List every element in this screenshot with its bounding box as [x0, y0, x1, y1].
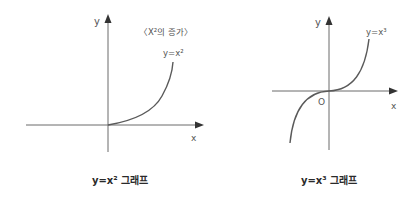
- x-axis-arrow-icon: [195, 122, 204, 129]
- graph-square: y x 〈X²의 증가〉 y=x² y=x² 그래프: [26, 14, 204, 186]
- graphs-canvas: y x 〈X²의 증가〉 y=x² y=x² 그래프 y x O y=x³ y=…: [0, 0, 417, 199]
- y-axis-arrow-icon: [326, 16, 333, 25]
- x-axis-arrow-icon: [389, 88, 398, 95]
- y-axis-label: y: [315, 17, 321, 28]
- curve-label: y=x²: [163, 48, 184, 58]
- annotation-label: 〈X²의 증가〉: [139, 27, 193, 37]
- origin-label: O: [318, 97, 325, 107]
- x-axis-label: x: [191, 133, 197, 143]
- y-axis-label: y: [94, 16, 100, 27]
- curve-label: y=x³: [366, 27, 387, 37]
- caption: y=x² 그래프: [92, 174, 148, 186]
- graph-cube: y x O y=x³ y=x³ 그래프: [272, 16, 398, 186]
- x-axis-label: x: [391, 101, 397, 111]
- curve-x-squared: [108, 62, 173, 125]
- y-axis-arrow-icon: [105, 14, 112, 23]
- caption: y=x³ 그래프: [301, 174, 357, 186]
